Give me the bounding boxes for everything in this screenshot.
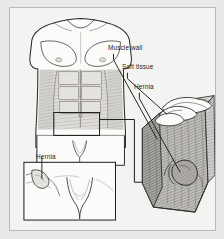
label-hernia-inset: Hernia bbox=[36, 154, 56, 160]
groin-inset-panel bbox=[24, 157, 116, 220]
torso-panel bbox=[30, 18, 132, 165]
illustration-figure: Muscle wall Soft tissue Hernia Hernia bbox=[0, 0, 224, 239]
label-hernia-cutaway: Hernia bbox=[134, 84, 154, 90]
label-muscle-wall: Muscle wall bbox=[108, 45, 143, 51]
illustration-plate: Muscle wall Soft tissue Hernia Hernia bbox=[9, 7, 216, 231]
label-soft-tissue: Soft tissue bbox=[122, 64, 154, 70]
anatomy-artwork bbox=[10, 8, 215, 230]
